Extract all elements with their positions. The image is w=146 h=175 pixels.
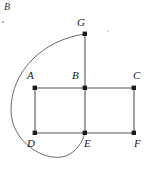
vertex-dot-C	[132, 86, 136, 90]
vertex-dot-E	[83, 131, 87, 135]
graph-figure	[0, 0, 146, 175]
vertex-label-G: G	[77, 17, 85, 28]
curved-edge-group	[11, 34, 85, 157]
vertex-dot-B	[83, 86, 87, 90]
stray-dot-left-icon	[2, 21, 4, 23]
stray-dot-right-icon	[107, 30, 109, 32]
straight-edges-group	[35, 34, 134, 133]
vertex-label-C: C	[133, 70, 140, 81]
stray-label-b: B	[4, 2, 10, 12]
vertex-label-F: F	[134, 138, 141, 149]
vertex-dot-D	[33, 131, 37, 135]
vertex-dot-G	[83, 32, 87, 36]
vertex-label-B: B	[72, 70, 79, 81]
vertex-label-D: D	[27, 138, 35, 149]
vertex-dot-A	[33, 86, 37, 90]
edge-curve-G-E	[11, 34, 85, 157]
vertex-label-A: A	[27, 70, 34, 81]
vertex-label-E: E	[84, 138, 91, 149]
vertex-dot-F	[132, 131, 136, 135]
